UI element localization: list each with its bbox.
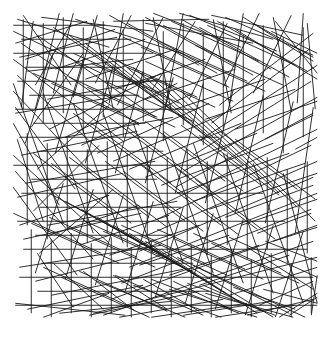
random-segment-plot-canvas	[0, 0, 333, 337]
figure-root: Dense random line segment process fillin…	[0, 0, 333, 337]
